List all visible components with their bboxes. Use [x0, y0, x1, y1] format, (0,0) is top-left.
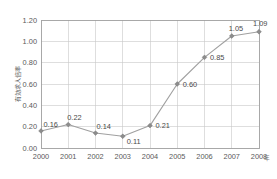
data-point-label: 0.22	[67, 113, 81, 122]
x-axis-title: 年	[264, 154, 270, 162]
data-point-label: 0.16	[44, 120, 58, 129]
data-point-marker	[93, 131, 98, 136]
x-axis-tick-label: 2003	[115, 152, 131, 161]
data-point-marker	[257, 29, 262, 34]
x-axis-tick-label: 2007	[224, 152, 240, 161]
y-axis-tick-label: 0.20	[23, 122, 37, 131]
data-point-marker	[66, 122, 71, 127]
data-point-label: 0.21	[156, 121, 170, 130]
x-axis-tick-label: 2000	[33, 152, 49, 161]
y-axis-tick-label: 0.80	[23, 58, 37, 67]
y-axis-tick-label: 0.40	[23, 101, 37, 110]
data-point-label: 1.09	[253, 19, 267, 28]
y-axis-tick-labels: 0.000.200.400.600.801.001.20	[23, 16, 37, 153]
x-axis-tick-label: 2004	[142, 152, 158, 161]
data-point-label: 0.14	[97, 122, 111, 131]
line-chart: 0.000.200.400.600.801.001.20 20002001200…	[0, 0, 277, 179]
data-point-label: 1.05	[229, 24, 243, 33]
data-point-label: 0.11	[127, 137, 141, 146]
y-axis-tick-label: 1.20	[23, 16, 37, 25]
x-axis-tick-label: 2006	[196, 152, 212, 161]
gridlines	[41, 20, 259, 148]
x-axis-tick-label: 2005	[169, 152, 185, 161]
y-axis-tick-label: 1.00	[23, 37, 37, 46]
x-axis-tick-label: 2002	[87, 152, 103, 161]
data-point-label: 0.60	[183, 80, 197, 89]
x-axis-tick-label: 2001	[60, 152, 76, 161]
data-point-label: 0.85	[210, 53, 224, 62]
chart-container: 0.000.200.400.600.801.001.20 20002001200…	[0, 0, 277, 179]
y-axis-tick-label: 0.60	[23, 80, 37, 89]
data-point-marker	[120, 134, 125, 139]
x-axis-tick-labels: 200020012002200320042005200620072008	[33, 152, 267, 161]
data-point-marker	[39, 129, 44, 134]
y-axis-title: 有効求人倍率	[14, 66, 22, 102]
